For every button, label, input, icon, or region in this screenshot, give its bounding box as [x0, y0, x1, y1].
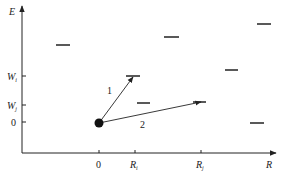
x-axis-label: R	[265, 159, 272, 170]
svg-text:Wi: Wi	[7, 71, 17, 83]
y-tick-zero: 0	[11, 117, 26, 128]
transition-arrow-1	[99, 77, 133, 123]
svg-text:Rj: Rj	[195, 159, 204, 171]
particle-dot	[95, 119, 104, 128]
energy-levels	[56, 24, 271, 123]
arrow-2-label: 2	[140, 119, 145, 130]
arrow-1-label: 1	[107, 85, 112, 96]
svg-text:0: 0	[96, 159, 101, 170]
svg-text:Ri: Ri	[129, 159, 138, 171]
svg-text:Wj: Wj	[7, 100, 17, 112]
transition-arrow-2	[99, 102, 201, 123]
y-tick-wi: Wi	[7, 71, 26, 83]
energy-diagram: E R Wi Wj 0 0 Ri Rj 1 2	[0, 0, 283, 178]
y-axis-label: E	[8, 6, 15, 17]
y-tick-wj: Wj	[7, 100, 26, 112]
svg-text:0: 0	[11, 117, 16, 128]
